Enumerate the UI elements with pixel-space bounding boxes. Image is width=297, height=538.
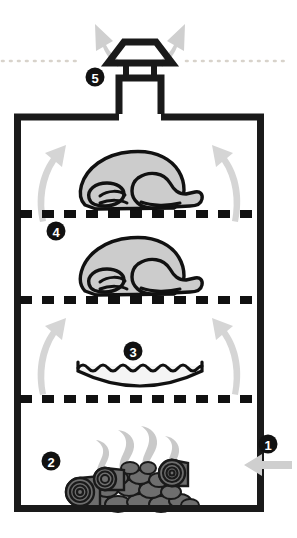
callout-1-number: 1 — [264, 438, 271, 453]
callout-5-number: 5 — [91, 71, 98, 86]
callout-3-number: 3 — [129, 345, 136, 360]
callout-5[interactable]: 5 — [86, 68, 105, 87]
diagram-canvas: 1 2 3 4 5 — [0, 0, 297, 538]
callout-2[interactable]: 2 — [42, 452, 61, 471]
callout-1[interactable]: 1 — [259, 435, 278, 454]
callout-3[interactable]: 3 — [124, 342, 143, 361]
callout-4-number: 4 — [52, 225, 60, 240]
callout-2-number: 2 — [47, 455, 54, 470]
callout-4[interactable]: 4 — [47, 222, 66, 241]
